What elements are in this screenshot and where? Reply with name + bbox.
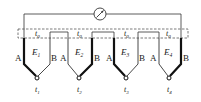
thermocouple-4 (159, 38, 181, 80)
junction-temp-label-3: t3 (124, 85, 129, 95)
junction-temp-label-4: t4 (167, 85, 172, 95)
junction-temp-label-1: t1 (35, 85, 40, 95)
emf-label-2: E2 (74, 47, 84, 58)
ref-temp-label-2: t0 (77, 29, 82, 39)
galvanometer-icon (94, 8, 106, 20)
thermocouple-diagram: t0 t0 t0 t0 A B A B A B A B E1 E2 E3 E4 … (0, 0, 201, 102)
wire-label-b-1: B (51, 53, 57, 63)
bridge-wires (50, 32, 159, 38)
wire-label-a-2: A (60, 53, 67, 63)
wire-label-a-3: A (106, 53, 113, 63)
emf-label-3: E3 (120, 47, 130, 58)
junction-temp-label-2: t2 (77, 85, 82, 95)
wire-label-a-1: A (15, 53, 22, 63)
emf-label-4: E4 (163, 47, 173, 58)
ref-temp-label-1: t0 (35, 29, 40, 39)
thermocouple-2 (68, 38, 92, 80)
reference-box (18, 29, 188, 38)
wire-label-a-4: A (150, 53, 157, 63)
thermocouple-3 (114, 38, 138, 80)
ref-temp-label-3: t0 (124, 29, 129, 39)
wire-label-b-4: B (183, 53, 189, 63)
wire-label-b-2: B (94, 53, 100, 63)
thermocouple-1 (24, 38, 50, 80)
wire-label-b-3: B (139, 53, 145, 63)
ref-temp-label-4: t0 (166, 29, 171, 39)
emf-label-1: E1 (31, 47, 41, 58)
